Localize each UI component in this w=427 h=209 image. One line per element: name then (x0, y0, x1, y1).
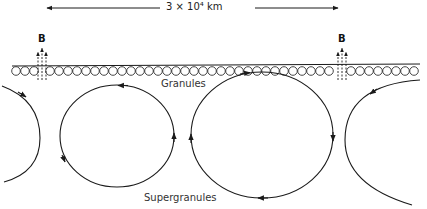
magnetic-field-label-right: B (338, 33, 346, 44)
granule-circles (12, 67, 419, 76)
supergranule-cell-right-partial (345, 80, 420, 205)
supergranule-cell-3 (191, 72, 333, 198)
scale-bar-label: 3 × 10⁴ km (163, 1, 226, 12)
granule-band (12, 64, 420, 75)
granules-label: Granules (161, 78, 206, 89)
magnetic-field-label-left: B (38, 33, 46, 44)
magnetic-flux-bundle-left (38, 48, 46, 80)
solar-convection-diagram (0, 0, 427, 209)
supergranules-label: Supergranules (144, 192, 217, 203)
supergranule-cell-2 (60, 85, 174, 187)
supergranule-cell-left-partial (2, 86, 40, 182)
supergranule-cells (2, 72, 420, 205)
